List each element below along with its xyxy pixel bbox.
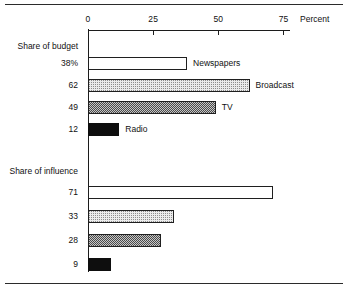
x-axis-tick-0 <box>88 30 89 35</box>
bar-category-tv: TV <box>222 101 233 114</box>
x-axis-tick-label-50: 50 <box>213 14 223 24</box>
bar-chart-plot: 0 25 50 75 Percent Share of budget 38% N… <box>0 0 347 293</box>
bar-influence-newspapers <box>88 186 273 199</box>
bar-influence-radio <box>88 258 111 271</box>
x-axis-tick-label-75: 75 <box>279 14 289 24</box>
chart-figure: 0 25 50 75 Percent Share of budget 38% N… <box>0 0 347 293</box>
x-axis-line <box>88 30 290 31</box>
group-heading-share-of-influence: Share of influence <box>9 166 78 176</box>
bar-category-radio: Radio <box>125 123 147 136</box>
bar-value-influence-broadcast: 33 <box>0 210 78 223</box>
bar-value-newspapers: 38% <box>0 57 78 70</box>
bar-newspapers <box>88 57 187 70</box>
x-axis-tick-75 <box>283 30 284 35</box>
group-heading-share-of-budget: Share of budget <box>18 41 79 51</box>
bar-influence-tv <box>88 234 161 247</box>
x-axis-tick-label-25: 25 <box>148 14 158 24</box>
x-axis-title: Percent <box>300 14 329 24</box>
x-axis-tick-label-0: 0 <box>86 14 91 24</box>
bar-value-radio: 12 <box>0 123 78 136</box>
bar-value-influence-radio: 9 <box>0 258 78 271</box>
bar-radio <box>88 123 119 136</box>
bar-influence-broadcast <box>88 210 174 223</box>
bar-value-influence-tv: 28 <box>0 234 78 247</box>
bar-value-tv: 49 <box>0 101 78 114</box>
bar-broadcast <box>88 79 250 92</box>
x-axis-tick-25 <box>153 30 154 35</box>
bar-value-broadcast: 62 <box>0 79 78 92</box>
bar-tv <box>88 101 216 114</box>
bar-category-newspapers: Newspapers <box>193 57 240 70</box>
bar-category-broadcast: Broadcast <box>256 79 294 92</box>
bar-value-influence-newspapers: 71 <box>0 186 78 199</box>
x-axis-tick-50 <box>218 30 219 35</box>
